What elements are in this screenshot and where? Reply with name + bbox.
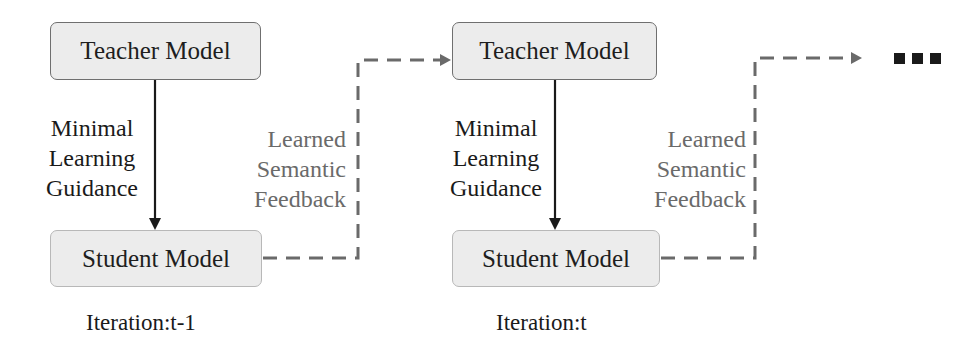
teacher-model-box-1: Teacher Model: [50, 22, 261, 80]
teacher-model-box-2: Teacher Model: [452, 22, 657, 80]
student-model-label: Student Model: [82, 245, 230, 273]
iteration-label-1: Iteration:t-1: [86, 310, 196, 336]
ellipsis-dot: [930, 53, 941, 64]
guidance-arrow-1: [149, 80, 161, 230]
teacher-model-label: Teacher Model: [479, 37, 629, 65]
guidance-label-2: Minimal Learning Guidance: [440, 113, 552, 203]
student-model-box-1: Student Model: [50, 230, 262, 287]
teacher-model-label: Teacher Model: [80, 37, 230, 65]
ellipsis-dot: [894, 53, 905, 64]
feedback-label-1: Learned Semantic Feedback: [222, 124, 346, 214]
ellipsis-squares-icon: [894, 53, 941, 64]
student-model-label: Student Model: [482, 245, 630, 273]
iterative-distillation-diagram: Teacher Model Minimal Learning Guidance …: [0, 0, 980, 355]
iteration-label-2: Iteration:t: [496, 310, 587, 336]
student-model-box-2: Student Model: [452, 230, 660, 287]
ellipsis-dot: [912, 53, 923, 64]
feedback-label-2: Learned Semantic Feedback: [622, 124, 746, 214]
guidance-label-1: Minimal Learning Guidance: [36, 113, 148, 203]
